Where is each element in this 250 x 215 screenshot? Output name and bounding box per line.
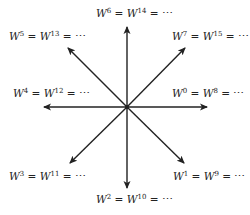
root-label-7: W7 = W15 = ⋯ xyxy=(172,30,249,42)
base-symbol: W xyxy=(204,170,215,182)
base-symbol: W xyxy=(172,87,183,99)
ellipsis: = ⋯ xyxy=(146,193,172,205)
exponent: 1 xyxy=(184,170,188,178)
base-symbol: W xyxy=(13,87,24,99)
root-label-1: W1 = W9 = ⋯ xyxy=(173,170,246,182)
base-symbol: W xyxy=(203,87,214,99)
root-label-5: W5 = W13 = ⋯ xyxy=(9,30,86,42)
root-label-6: W6 = W14 = ⋯ xyxy=(96,7,173,19)
ellipsis: = ⋯ xyxy=(59,30,85,42)
exponent: 6 xyxy=(107,7,111,15)
base-symbol: W xyxy=(173,170,184,182)
exponent: 5 xyxy=(20,30,24,38)
base-symbol: W xyxy=(127,7,138,19)
ellipsis: = ⋯ xyxy=(63,87,89,99)
base-symbol: W xyxy=(44,87,55,99)
exponent: 3 xyxy=(20,170,24,178)
ellipsis: = ⋯ xyxy=(146,7,172,19)
twiddle-factor-diagram: W0 = W8 = ⋯W1 = W9 = ⋯W2 = W10 = ⋯W3 = W… xyxy=(0,0,250,215)
base-symbol: W xyxy=(96,7,107,19)
base-symbol: W xyxy=(96,193,107,205)
base-symbol: W xyxy=(9,170,20,182)
arrow-3 xyxy=(70,107,127,163)
exponent: 0 xyxy=(183,87,187,95)
arrow-1 xyxy=(127,107,184,163)
base-symbol: W xyxy=(127,193,138,205)
base-symbol: W xyxy=(40,170,51,182)
base-symbol: W xyxy=(172,30,183,42)
exponent: 4 xyxy=(24,87,28,95)
base-symbol: W xyxy=(203,30,214,42)
root-label-0: W0 = W8 = ⋯ xyxy=(172,87,245,99)
ellipsis: = ⋯ xyxy=(219,170,245,182)
root-label-3: W3 = W11 = ⋯ xyxy=(9,170,86,182)
root-label-4: W4 = W12 = ⋯ xyxy=(13,87,90,99)
ellipsis: = ⋯ xyxy=(59,170,85,182)
base-symbol: W xyxy=(9,30,20,42)
root-label-2: W2 = W10 = ⋯ xyxy=(96,193,173,205)
exponent: 2 xyxy=(107,193,111,201)
ellipsis: = ⋯ xyxy=(222,30,248,42)
base-symbol: W xyxy=(40,30,51,42)
exponent: 7 xyxy=(183,30,187,38)
ellipsis: = ⋯ xyxy=(218,87,244,99)
origin-point xyxy=(125,105,129,109)
